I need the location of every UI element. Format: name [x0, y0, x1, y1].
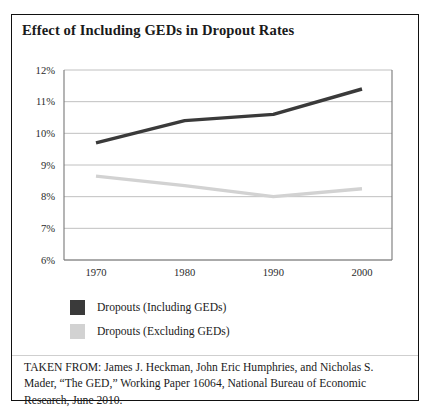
legend-item: Dropouts (Including GEDs)	[70, 297, 370, 317]
chart-legend: Dropouts (Including GEDs) Dropouts (Excl…	[70, 297, 370, 345]
legend-swatch-excluding-geds	[70, 324, 85, 339]
citation-divider	[12, 355, 418, 356]
source-citation: TAKEN FROM: James J. Heckman, John Eric …	[24, 360, 396, 409]
legend-swatch-including-geds	[70, 300, 85, 315]
legend-label: Dropouts (Excluding GEDs)	[97, 325, 230, 338]
chart-title: Effect of Including GEDs in Dropout Rate…	[22, 22, 294, 39]
legend-label: Dropouts (Including GEDs)	[97, 301, 226, 314]
legend-item: Dropouts (Excluding GEDs)	[70, 321, 370, 341]
